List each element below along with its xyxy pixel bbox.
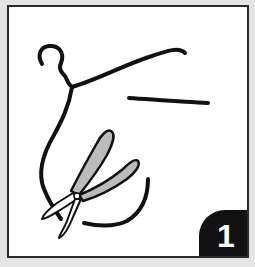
step-number: 1: [217, 220, 235, 252]
step-number-badge: 1: [199, 210, 249, 258]
instruction-panel: 1: [7, 5, 249, 258]
